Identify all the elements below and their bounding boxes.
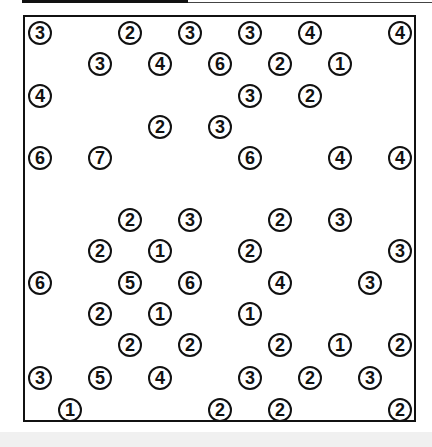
island-r1-c10[interactable]: 1	[328, 52, 352, 76]
island-r0-c5[interactable]: 3	[178, 21, 202, 45]
island-r3-c6[interactable]: 3	[208, 115, 232, 139]
island-r2-c7[interactable]: 3	[238, 84, 262, 108]
island-r8-c8[interactable]: 4	[268, 271, 292, 295]
island-r7-c4[interactable]: 1	[148, 239, 172, 263]
island-r6-c8[interactable]: 2	[268, 208, 292, 232]
island-r2-c0[interactable]: 4	[28, 84, 52, 108]
island-r12-c8[interactable]: 2	[268, 398, 292, 422]
footer-area	[0, 432, 432, 447]
island-r4-c10[interactable]: 4	[328, 146, 352, 170]
island-r7-c12[interactable]: 3	[388, 239, 412, 263]
island-r11-c2[interactable]: 5	[88, 366, 112, 390]
island-r4-c0[interactable]: 6	[28, 146, 52, 170]
island-r10-c12[interactable]: 2	[388, 333, 412, 357]
island-r11-c7[interactable]: 3	[238, 366, 262, 390]
island-r9-c4[interactable]: 1	[148, 302, 172, 326]
island-r6-c5[interactable]: 3	[178, 208, 202, 232]
island-r7-c7[interactable]: 2	[238, 239, 262, 263]
island-r11-c9[interactable]: 2	[298, 366, 322, 390]
island-r9-c2[interactable]: 2	[88, 302, 112, 326]
title-rule-divider	[188, 2, 432, 3]
island-r10-c10[interactable]: 1	[328, 333, 352, 357]
island-r0-c3[interactable]: 2	[118, 21, 142, 45]
island-r11-c11[interactable]: 3	[358, 366, 382, 390]
island-r7-c2[interactable]: 2	[88, 239, 112, 263]
island-r10-c8[interactable]: 2	[268, 333, 292, 357]
clipped-title	[22, 0, 188, 3]
island-r9-c7[interactable]: 1	[238, 302, 262, 326]
island-r0-c7[interactable]: 3	[238, 21, 262, 45]
island-r1-c6[interactable]: 6	[208, 52, 232, 76]
island-r6-c10[interactable]: 3	[328, 208, 352, 232]
island-r8-c3[interactable]: 5	[118, 271, 142, 295]
island-r11-c4[interactable]: 4	[148, 366, 172, 390]
island-r0-c9[interactable]: 4	[298, 21, 322, 45]
island-r4-c12[interactable]: 4	[388, 146, 412, 170]
island-r11-c0[interactable]: 3	[28, 366, 52, 390]
island-r0-c12[interactable]: 4	[388, 21, 412, 45]
island-r6-c3[interactable]: 2	[118, 208, 142, 232]
island-r10-c3[interactable]: 2	[118, 333, 142, 357]
island-r12-c12[interactable]: 2	[388, 398, 412, 422]
island-r3-c4[interactable]: 2	[148, 115, 172, 139]
island-r1-c8[interactable]: 2	[268, 52, 292, 76]
island-r8-c11[interactable]: 3	[358, 271, 382, 295]
island-r2-c9[interactable]: 2	[298, 84, 322, 108]
island-r8-c0[interactable]: 6	[28, 271, 52, 295]
island-r4-c2[interactable]: 7	[88, 146, 112, 170]
island-r10-c5[interactable]: 2	[178, 333, 202, 357]
puzzle-board: 3233443462143223676442323212365643211222…	[23, 15, 416, 422]
island-r12-c1[interactable]: 1	[58, 398, 82, 422]
island-r0-c0[interactable]: 3	[28, 21, 52, 45]
island-r12-c6[interactable]: 2	[208, 398, 232, 422]
island-r4-c7[interactable]: 6	[238, 146, 262, 170]
island-r8-c5[interactable]: 6	[178, 271, 202, 295]
island-r1-c2[interactable]: 3	[88, 52, 112, 76]
island-r1-c4[interactable]: 4	[148, 52, 172, 76]
